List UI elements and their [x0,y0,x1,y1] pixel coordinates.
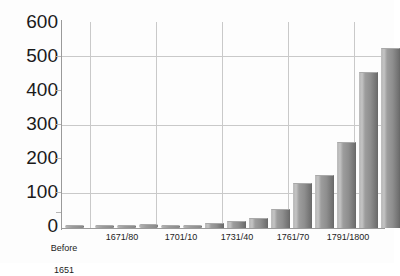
y-tick-label-100: 100 [2,182,58,201]
gridline-500 [62,56,384,57]
group-separator-2 [156,22,157,228]
group-separator-4 [288,22,289,228]
bar-1741-50 [271,209,290,228]
bar-1761-70 [315,175,334,228]
y-axis-labels: 600 500 400 300 200 100 0 [0,0,58,263]
plot-area [62,22,384,228]
group-separator-3 [222,22,223,228]
bar-1781-90 [359,72,378,228]
y-tick-label-200: 200 [2,148,58,167]
bar-1711-20 [205,223,224,228]
bar-1701-10 [183,225,202,228]
y-tick-label-400: 400 [2,80,58,99]
x-tick-label-1791-1800: 1791/1800 [317,232,379,243]
gridline-300 [62,125,384,126]
bar-1691-1700 [161,225,180,228]
y-tick-label-600: 600 [2,12,58,31]
x-axis-labels: Before 1651 1671/80 1701/10 1731/40 1761… [0,230,394,263]
x-tick-label-1731-40: 1731/40 [209,232,265,243]
x-tick-label-before-1651: Before 1651 [38,232,90,276]
bar-1731-40 [249,218,268,228]
bar-1721-30 [227,221,246,228]
x-tick-label-1761-70: 1761/70 [265,232,321,243]
bar-1751-60 [293,183,312,228]
bar-1681-90 [139,224,158,228]
bar-1671-80 [117,225,136,228]
gridline-100 [62,193,384,194]
group-separator-1 [90,22,91,228]
x-tick-label-1701-10: 1701/10 [153,232,209,243]
y-tick-label-500: 500 [2,46,58,65]
x-axis-line [61,228,385,229]
bar-1661-70 [95,225,114,228]
bar-1791-1800 [381,48,400,228]
y-tick-label-300: 300 [2,114,58,133]
x-tick-label-line2: 1651 [54,265,74,275]
x-tick-label-line1: Before [51,243,78,253]
x-tick-label-1671-80: 1671/80 [94,232,150,243]
bar-before-1651 [65,225,84,228]
bar-1771-80 [337,142,356,228]
